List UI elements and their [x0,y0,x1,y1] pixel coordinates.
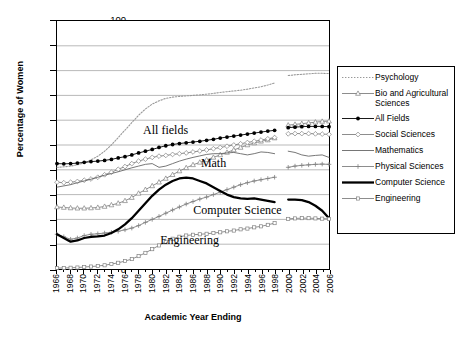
x-axis-minor-tick-mark [138,270,139,272]
x-axis-tick: 1994 [244,274,253,293]
legend-item-label: Bio and Agricultural Sciences [375,88,451,108]
x-axis-minor-tick-mark [262,270,263,272]
x-axis-minor-tick-mark [282,270,283,272]
x-axis-minor-tick-mark [303,270,304,272]
x-axis-minor-tick-mark [97,270,98,272]
legend-item[interactable]: Bio and Agricultural Sciences [341,88,451,108]
x-axis-tick: 1970 [79,274,88,293]
x-axis-tick: 1996 [258,274,267,293]
x-axis-minor-tick-mark [220,270,221,272]
x-axis-tick: 2002 [299,274,308,293]
x-axis-tick: 1968 [66,274,75,293]
x-axis-tick: 1998 [271,274,280,293]
chart-figure: Percentage of Women 01020304050607080901… [0,0,462,340]
x-axis-minor-tick-mark [145,270,146,272]
x-axis-minor-tick-mark [118,270,119,272]
x-axis-minor-tick-mark [179,270,180,272]
legend-key-icon [341,193,375,204]
x-axis-tick: 1976 [121,274,130,293]
x-axis-minor-tick-mark [241,270,242,272]
x-axis-tick: 1986 [189,274,198,293]
legend-item[interactable]: All Fields [341,113,451,124]
legend-item-label: Engineering [375,193,420,203]
x-axis-tick: 1980 [148,274,157,293]
x-axis-tick: 2006 [326,274,335,293]
x-axis-minor-tick-mark [289,270,290,272]
x-axis-title: Academic Year Ending [56,312,330,322]
x-axis-minor-tick-mark [323,270,324,272]
x-axis-minor-tick-mark [309,270,310,272]
legend-item[interactable]: Psychology [341,72,451,83]
x-axis-minor-tick-mark [131,270,132,272]
x-axis-minor-tick-mark [77,270,78,272]
annotation-all-fields: All fields [143,123,188,138]
legend-item[interactable]: Physical Sciences [341,161,451,172]
x-axis-minor-tick-mark [255,270,256,272]
series-all-fields [55,125,331,166]
legend-key-icon [341,161,375,172]
x-axis-minor-tick-mark [227,270,228,272]
x-axis-tick: 1990 [216,274,225,293]
chart-legend: PsychologyBio and Agricultural SciencesA… [337,66,455,234]
x-axis-minor-tick-mark [111,270,112,272]
x-axis-minor-tick-mark [152,270,153,272]
series-bio-and-agricultural-sciences [55,119,332,210]
x-axis-tick: 1978 [134,274,143,293]
x-axis-minor-tick-mark [214,270,215,272]
legend-item-label: All Fields [375,113,409,123]
x-axis-minor-tick-mark [268,270,269,272]
x-axis-minor-tick-mark [70,270,71,272]
legend-item-label: Social Sciences [375,129,435,139]
legend-item-label: Physical Sciences [375,161,444,171]
x-axis-minor-tick-mark [63,270,64,272]
x-axis-minor-tick-mark [200,270,201,272]
y-axis-title: Percentage of Women [15,49,25,169]
x-axis-minor-tick-mark [166,270,167,272]
x-axis-tick: 1992 [230,274,239,293]
x-axis-minor-tick-mark [296,270,297,272]
x-axis-minor-tick-mark [275,270,276,272]
legend-key-icon [341,72,375,83]
legend-item-label: Computer Science [375,177,445,187]
x-axis-minor-tick-mark [316,270,317,272]
x-axis-minor-tick-mark [193,270,194,272]
x-axis-tick: 1982 [162,274,171,293]
x-axis-minor-tick-mark [172,270,173,272]
legend-item[interactable]: Social Sciences [341,129,451,140]
x-axis-minor-tick-mark [330,270,331,272]
x-axis-tick: 1984 [175,274,184,293]
legend-item[interactable]: Mathematics [341,145,451,156]
legend-item-label: Mathematics [375,145,423,155]
series-social-sciences [55,131,332,185]
legend-key-icon [341,113,375,124]
x-axis-minor-tick-mark [207,270,208,272]
x-axis-minor-tick-mark [83,270,84,272]
x-axis-tick: 2000 [285,274,294,293]
legend-key-icon [341,177,375,188]
x-axis-minor-tick-mark [125,270,126,272]
x-axis-tick: 1974 [107,274,116,293]
data-series-layer [57,21,329,269]
annotation-math: Math [201,156,226,171]
series-physical-sciences [55,162,332,242]
annotation-engineering: Engineering [160,233,219,248]
x-axis-minor-tick-mark [56,270,57,272]
x-axis-minor-tick-mark [159,270,160,272]
x-axis-minor-tick-mark [234,270,235,272]
x-axis-minor-tick-mark [186,270,187,272]
x-axis-minor-tick-mark [248,270,249,272]
x-axis-minor-tick-mark [104,270,105,272]
legend-key-icon [341,129,375,140]
legend-item-label: Psychology [375,72,418,82]
legend-key-icon [341,88,375,99]
x-axis-tick: 2004 [312,274,321,293]
legend-key-icon [341,145,375,156]
x-axis-tick: 1972 [93,274,102,293]
x-axis-tick: 1966 [52,274,61,293]
x-axis-minor-tick-mark [90,270,91,272]
x-axis-tick: 1988 [203,274,212,293]
legend-item[interactable]: Computer Science [341,177,451,188]
annotation-computer-science: Computer Science [193,203,281,218]
legend-item[interactable]: Engineering [341,193,451,204]
